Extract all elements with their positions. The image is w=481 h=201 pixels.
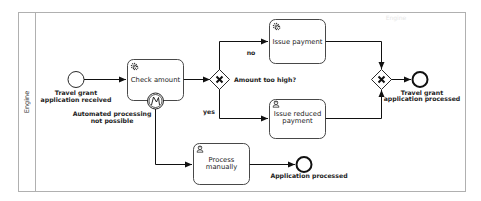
task-issue-payment-label: Issue payment <box>272 38 322 46</box>
lane-label: Engine <box>23 91 31 113</box>
task-check-amount-label: Check amount <box>131 76 181 84</box>
end-event-manual-label: Application processed <box>270 172 347 180</box>
task-issue-reduced-label-2: payment <box>282 117 313 125</box>
gateway-label: Amount too high? <box>234 76 296 84</box>
end-event-manual[interactable] <box>297 157 312 172</box>
task-issue-payment[interactable]: Issue payment <box>270 20 326 64</box>
task-process-manually[interactable]: Process manually <box>194 144 250 185</box>
task-process-manually-label-2: manually <box>206 163 237 171</box>
start-event-label-2: application received <box>41 96 112 104</box>
boundary-error-event[interactable] <box>148 93 164 109</box>
bpmn-diagram: Engine Engine Travel grant application r… <box>0 0 481 201</box>
flow-yes-label: yes <box>203 108 215 116</box>
end-event-processed-label-2: application processed <box>384 95 461 103</box>
flow-no-label: no <box>247 49 256 56</box>
end-event-processed[interactable] <box>413 72 428 87</box>
boundary-label-2: not possible <box>91 117 134 125</box>
start-event[interactable] <box>68 72 84 88</box>
task-issue-reduced-payment[interactable]: Issue reduced payment <box>270 100 326 139</box>
pool-watermark: Engine <box>386 14 407 22</box>
